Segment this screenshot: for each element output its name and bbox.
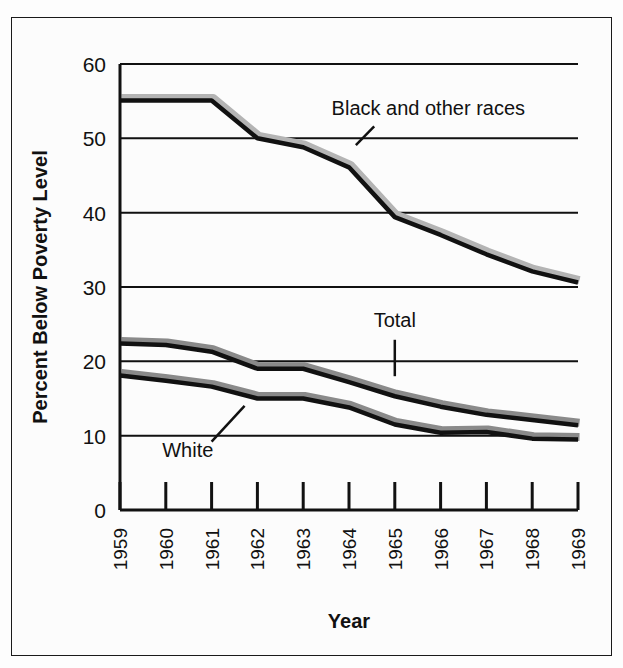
- y-axis-tick-labels: 0102030405060: [83, 53, 106, 522]
- figure-container: 0102030405060 19591960196119621963196419…: [0, 0, 623, 668]
- annotation-label-2: White: [162, 439, 213, 461]
- y-tick-label-0: 0: [94, 499, 106, 522]
- x-tick-label-1962: 1962: [247, 528, 268, 570]
- x-tick-label-1961: 1961: [202, 528, 223, 570]
- series-shadow-0: [122, 98, 580, 280]
- x-axis-ticks: [120, 482, 578, 510]
- x-tick-label-1966: 1966: [431, 528, 452, 570]
- x-tick-label-1960: 1960: [156, 528, 177, 570]
- annotation-label-0: Black and other races: [332, 97, 525, 119]
- x-tick-label-1963: 1963: [293, 528, 314, 570]
- y-tick-label-40: 40: [83, 202, 106, 225]
- x-tick-label-1964: 1964: [339, 528, 360, 571]
- series-line-layer: [120, 100, 578, 439]
- y-tick-label-60: 60: [83, 53, 106, 76]
- poverty-line-chart: 0102030405060 19591960196119621963196419…: [0, 0, 623, 668]
- series-line-0: [120, 100, 578, 282]
- y-tick-label-20: 20: [83, 350, 106, 373]
- y-axis-title: Percent Below Poverty Level: [29, 150, 51, 423]
- x-tick-label-1967: 1967: [476, 528, 497, 570]
- x-tick-label-1968: 1968: [522, 528, 543, 570]
- y-tick-label-10: 10: [83, 425, 106, 448]
- y-tick-label-30: 30: [83, 276, 106, 299]
- x-tick-label-1965: 1965: [385, 528, 406, 570]
- x-axis-tick-labels: 1959196019611962196319641965196619671968…: [110, 528, 589, 571]
- y-tick-label-50: 50: [83, 127, 106, 150]
- annotation-label-1: Total: [374, 309, 416, 331]
- x-tick-label-1959: 1959: [110, 528, 131, 570]
- annotation-leader-0: [356, 126, 374, 145]
- x-tick-label-1969: 1969: [568, 528, 589, 570]
- x-axis-title: Year: [328, 610, 370, 632]
